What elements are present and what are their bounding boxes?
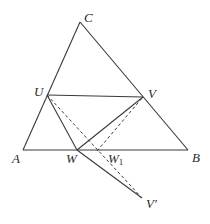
segment-UW: [47, 95, 77, 150]
segment-AC: [23, 22, 80, 150]
segment-UVp-dashed: [47, 95, 142, 198]
label-C: C: [84, 10, 93, 25]
label-W1: W1: [108, 151, 123, 167]
triangle-diagram: C U V A W W1 B V′: [0, 0, 210, 224]
label-W1-sub: 1: [119, 157, 124, 167]
label-A: A: [11, 151, 20, 166]
segment-CB: [80, 22, 188, 150]
segment-WV: [77, 97, 143, 150]
segment-W1V-dashed: [97, 97, 143, 151]
label-V: V: [148, 86, 158, 101]
label-Vp: V′: [146, 196, 157, 211]
label-W: W: [66, 151, 78, 166]
segment-UV: [47, 95, 143, 97]
solid-lines: [23, 22, 188, 198]
label-U: U: [34, 84, 45, 99]
dashed-lines: [47, 95, 143, 198]
label-B: B: [192, 150, 200, 165]
